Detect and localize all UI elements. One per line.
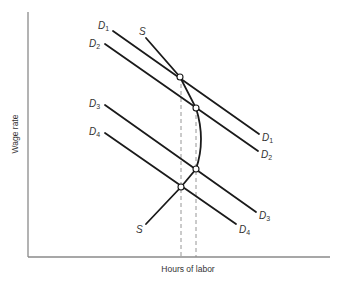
x-axis-label: Hours of labor <box>161 264 215 274</box>
label-d4-start: D4 <box>89 126 100 138</box>
label-d2-start: D2 <box>89 38 100 50</box>
label-s-top: S <box>139 26 146 37</box>
equilibrium-point-d2 <box>193 105 199 111</box>
supply-curve <box>146 38 201 224</box>
equilibrium-point-d1 <box>177 74 183 80</box>
demand-curve-d3 <box>105 105 256 212</box>
equilibrium-point-d4 <box>178 184 184 190</box>
demand-curve-d4 <box>105 133 236 224</box>
equilibrium-point-d3 <box>193 166 199 172</box>
backward-bending-labor-supply-diagram: D1 D2 D3 D4 S D1 D2 D3 D4 S Hours of lab… <box>0 0 337 283</box>
y-axis-label: Wage rate <box>10 114 20 153</box>
label-d1-end: D1 <box>262 132 273 144</box>
demand-curve-d1 <box>113 31 259 134</box>
demand-curve-d2 <box>105 44 258 151</box>
label-d4-end: D4 <box>239 224 250 236</box>
label-s-bottom: S <box>136 224 143 235</box>
label-d2-end: D2 <box>261 149 272 161</box>
label-d1-start: D1 <box>98 20 109 32</box>
label-d3-end: D3 <box>259 210 270 222</box>
label-d3-start: D3 <box>89 98 100 110</box>
